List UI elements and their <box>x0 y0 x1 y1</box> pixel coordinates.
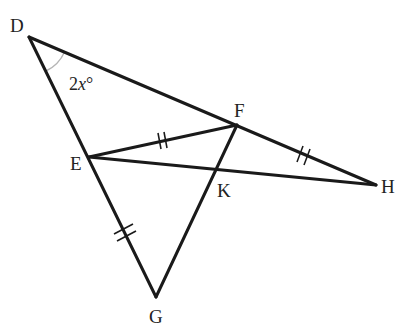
label-point-f: F <box>234 100 245 121</box>
angle-label-d: 2x° <box>69 74 93 94</box>
angle-label-unit: ° <box>86 74 93 94</box>
segment-fg <box>156 125 237 297</box>
segment-eh <box>89 157 376 185</box>
label-point-g: G <box>149 306 163 327</box>
angle-label-variable: x <box>77 74 86 94</box>
label-point-d: D <box>10 15 24 36</box>
angle-label-number: 2 <box>69 74 78 94</box>
label-point-k: K <box>217 180 231 201</box>
angle-arc-d <box>46 52 65 71</box>
geometry-diagram: D F E K H G 2x° <box>0 0 407 336</box>
label-point-h: H <box>381 176 395 197</box>
segment-ef <box>89 125 237 157</box>
label-point-e: E <box>70 153 82 174</box>
